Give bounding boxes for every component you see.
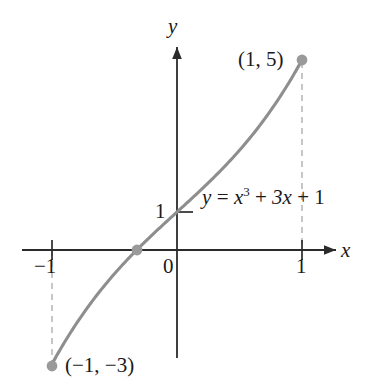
equation-lhs: y — [202, 185, 211, 209]
point-marker-x-intercept — [132, 245, 143, 256]
x-tick-label-negative-one: −1 — [34, 256, 56, 277]
x-tick-label-positive-one: 1 — [296, 256, 307, 277]
point-label-max: (1, 5) — [238, 49, 284, 70]
origin-label: 0 — [163, 256, 174, 277]
x-axis-arrowhead — [324, 245, 336, 255]
point-label-min: (−1, −3) — [65, 355, 134, 376]
y-axis-label: y — [168, 16, 177, 37]
point-marker-min — [47, 361, 58, 372]
function-graph-figure: y x 1 0 −1 1 (1, 5) (−1, −3) y = x3 + 3x… — [0, 0, 368, 386]
equation-plus-2: + — [297, 185, 309, 209]
equation-equals: = — [217, 185, 229, 209]
y-axis-arrowhead — [172, 47, 182, 59]
equation-plus-1: + — [255, 185, 267, 209]
equation-term2: 3x — [272, 185, 292, 209]
equation-label: y = x3 + 3x + 1 — [202, 185, 325, 208]
x-axis-label: x — [341, 240, 350, 261]
equation-term1-exponent: 3 — [243, 184, 250, 199]
y-tick-label-one: 1 — [155, 201, 166, 222]
equation-term3: 1 — [314, 185, 325, 209]
point-marker-max — [297, 55, 308, 66]
equation-term1-base: x — [234, 185, 243, 209]
